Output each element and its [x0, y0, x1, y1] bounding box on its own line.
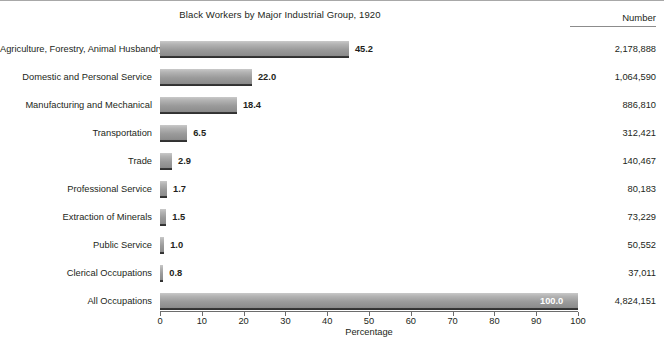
axis-tick-label: 0: [140, 316, 180, 326]
count-value: 312,421: [570, 119, 656, 147]
x-axis-title: Percentage: [160, 327, 578, 337]
category-label: All Occupations: [0, 287, 152, 315]
bar-track: 1.5: [160, 203, 578, 231]
bar[interactable]: [160, 237, 164, 254]
chart-row: Transportation6.5312,421: [0, 119, 664, 147]
bar[interactable]: [160, 41, 349, 58]
category-label: Clerical Occupations: [0, 259, 152, 287]
bar-track: 1.0: [160, 231, 578, 259]
count-value: 1,064,590: [570, 63, 656, 91]
bar[interactable]: [160, 153, 172, 170]
category-label: Public Service: [0, 231, 152, 259]
bar[interactable]: [160, 97, 237, 114]
axis-tick-label: 20: [224, 316, 264, 326]
bar-value-label: 1.0: [170, 237, 183, 254]
count-value: 37,011: [570, 259, 656, 287]
axis-tick-label: 90: [516, 316, 556, 326]
chart-row: Trade2.9140,467: [0, 147, 664, 175]
bar-value-label: 18.4: [243, 97, 261, 114]
axis-tick-label: 70: [433, 316, 473, 326]
count-value: 4,824,151: [570, 287, 656, 315]
bar-track: 1.7: [160, 175, 578, 203]
category-label: Agriculture, Forestry, Animal Husbandry: [0, 35, 152, 63]
bar-value-label: 100.0: [540, 293, 563, 310]
count-value: 2,178,888: [570, 35, 656, 63]
category-label: Extraction of Minerals: [0, 203, 152, 231]
axis-tick-label: 100: [558, 316, 598, 326]
category-label: Manufacturing and Mechanical: [0, 91, 152, 119]
bar-value-label: 22.0: [258, 69, 276, 86]
bar[interactable]: [160, 209, 166, 226]
bar-track: 22.0: [160, 63, 578, 91]
bar-track: 2.9: [160, 147, 578, 175]
bar[interactable]: [160, 181, 167, 198]
number-column-header: Number: [570, 12, 656, 27]
bar[interactable]: [160, 265, 163, 282]
category-label: Domestic and Personal Service: [0, 63, 152, 91]
bar-value-label: 0.8: [169, 265, 182, 282]
category-label: Trade: [0, 147, 152, 175]
chart-row: Clerical Occupations0.837,011: [0, 259, 664, 287]
axis-tick-label: 60: [391, 316, 431, 326]
chart-row: Agriculture, Forestry, Animal Husbandry4…: [0, 35, 664, 63]
bar-track: 6.5: [160, 119, 578, 147]
x-axis: 0102030405060708090100: [160, 311, 578, 312]
bar-value-label: 45.2: [355, 41, 373, 58]
bar[interactable]: [160, 69, 252, 86]
category-label: Transportation: [0, 119, 152, 147]
axis-tick-label: 40: [307, 316, 347, 326]
category-label: Professional Service: [0, 175, 152, 203]
axis-tick-label: 80: [474, 316, 514, 326]
count-value: 73,229: [570, 203, 656, 231]
bar-value-label: 2.9: [178, 153, 191, 170]
chart-row: Professional Service1.780,183: [0, 175, 664, 203]
count-value: 80,183: [570, 175, 656, 203]
axis-tick-label: 30: [265, 316, 305, 326]
bar-track: 18.4: [160, 91, 578, 119]
bar-value-label: 1.5: [172, 209, 185, 226]
plot-area: Agriculture, Forestry, Animal Husbandry4…: [0, 35, 664, 311]
bar[interactable]: [160, 293, 578, 310]
bar-value-label: 6.5: [193, 125, 206, 142]
chart-container: Black Workers by Major Industrial Group,…: [0, 0, 664, 342]
count-value: 886,810: [570, 91, 656, 119]
bar-track: 0.8: [160, 259, 578, 287]
axis-tick-label: 50: [349, 316, 389, 326]
axis-tick-label: 10: [182, 316, 222, 326]
chart-row: Public Service1.050,552: [0, 231, 664, 259]
bar-value-label: 1.7: [173, 181, 186, 198]
chart-row: Domestic and Personal Service22.01,064,5…: [0, 63, 664, 91]
count-value: 140,467: [570, 147, 656, 175]
chart-title: Black Workers by Major Industrial Group,…: [0, 9, 560, 20]
count-value: 50,552: [570, 231, 656, 259]
chart-row: Extraction of Minerals1.573,229: [0, 203, 664, 231]
bar[interactable]: [160, 125, 187, 142]
bar-track: 45.2: [160, 35, 578, 63]
chart-row: Manufacturing and Mechanical18.4886,810: [0, 91, 664, 119]
